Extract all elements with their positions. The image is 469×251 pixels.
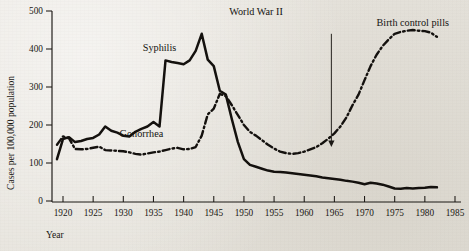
arrow-head <box>328 140 334 147</box>
x-tick-label: 1935 <box>144 208 163 218</box>
y-tick-label: 100 <box>29 158 43 168</box>
y-tick-label: 500 <box>29 6 43 16</box>
y-axis-tick-labels: 0100200300400500 <box>29 6 43 206</box>
x-tick-label: 1945 <box>204 208 223 218</box>
y-axis-ticks <box>46 11 52 201</box>
y-tick-label: 400 <box>29 44 43 54</box>
x-axis: 1920192519301935194019451950195519601965… <box>52 196 465 218</box>
x-tick-label: 1925 <box>84 208 103 218</box>
series-label-gonorrhea: Gonorrhea <box>120 128 164 139</box>
y-axis: 0100200300400500 <box>29 6 52 206</box>
x-tick-label: 1965 <box>325 208 344 218</box>
x-axis-ticks <box>63 196 455 202</box>
x-tick-label: 1920 <box>54 208 73 218</box>
birth-control-pills-arrow <box>328 34 334 147</box>
y-axis-title: Cases per 100,000 population <box>5 76 16 190</box>
x-tick-label: 1985 <box>446 208 465 218</box>
x-tick-label: 1975 <box>385 208 404 218</box>
series-label-syphilis: Syphilis <box>143 42 176 53</box>
annotation-world-war-ii: World War II <box>229 6 283 17</box>
x-tick-label: 1960 <box>295 208 314 218</box>
y-tick-label: 300 <box>29 82 43 92</box>
series-line-syphilis <box>57 34 437 189</box>
annotation-birth-control-pills: Birth control pills <box>377 17 449 28</box>
x-tick-label: 1940 <box>174 208 193 218</box>
x-tick-label: 1980 <box>416 208 435 218</box>
x-axis-tick-labels: 1920192519301935194019451950195519601965… <box>54 208 465 218</box>
x-tick-label: 1955 <box>265 208 284 218</box>
y-tick-label: 200 <box>29 120 43 130</box>
x-tick-label: 1970 <box>355 208 374 218</box>
y-tick-label: 0 <box>38 196 43 206</box>
series-line-gonorrhea <box>57 30 437 155</box>
x-tick-label: 1950 <box>235 208 254 218</box>
x-axis-title: Year <box>46 229 64 240</box>
chart-canvas: 0100200300400500 19201925193019351940194… <box>0 0 469 251</box>
x-tick-label: 1930 <box>114 208 133 218</box>
